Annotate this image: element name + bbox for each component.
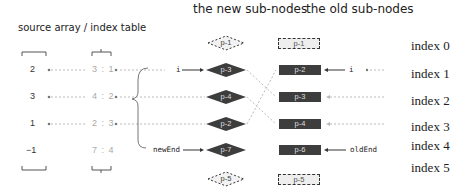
old-nodes-header: the old sub-nodes	[306, 2, 414, 16]
index-label: index 4	[411, 138, 450, 154]
index-table-entry: 2 : 3	[92, 118, 115, 128]
index-table-entry: 4 : 2	[92, 91, 115, 101]
new-nodes-header: the new sub-nodes	[193, 2, 307, 16]
index-label: index 0	[411, 38, 450, 54]
new-node: p-3	[206, 65, 246, 75]
old-end-pointer: oldEnd	[350, 145, 377, 154]
index-label: index 1	[411, 66, 450, 82]
source-array-value: 3	[30, 91, 35, 101]
source-array-value: −1	[26, 145, 36, 155]
old-node: p-3	[279, 92, 321, 102]
source-array-value: 1	[30, 118, 35, 128]
index-label: index 2	[411, 93, 450, 109]
old-node-ghost: p-5	[278, 174, 320, 185]
old-i-pointer: i	[349, 65, 354, 74]
new-node: p-4	[206, 92, 246, 102]
new-node-ghost: p-5	[206, 174, 246, 184]
curly-brace	[132, 68, 148, 148]
new-node-ghost: p-1	[206, 38, 246, 48]
index-label: index 3	[411, 119, 450, 135]
new-node: p-7	[206, 145, 246, 155]
new-end-pointer: newEnd	[153, 145, 180, 154]
index-table-entry: 3 : 1	[92, 64, 115, 74]
source-index-header: source array / index table	[18, 22, 146, 33]
source-array-value: 2	[30, 64, 35, 74]
old-node-ghost: p-1	[278, 38, 320, 49]
index-label: index 5	[411, 160, 450, 176]
new-i-pointer: i	[176, 65, 181, 74]
new-node: p-2	[206, 119, 246, 129]
old-node: p-2	[279, 65, 321, 75]
old-node: p-4	[279, 119, 321, 129]
new-node-diamonds	[206, 36, 246, 186]
old-node: p-6	[279, 145, 321, 155]
index-table-entry: 7 : 4	[92, 145, 115, 155]
